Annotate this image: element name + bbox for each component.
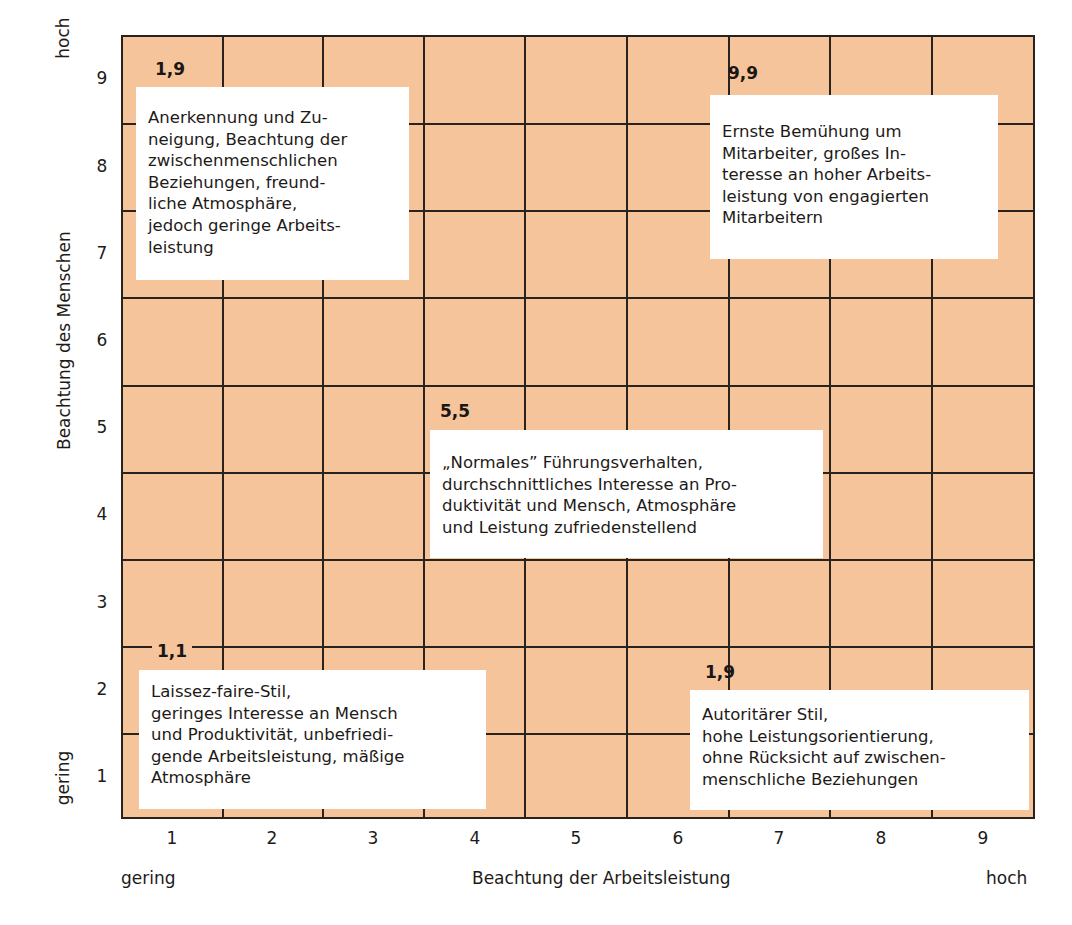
description-line: Anerkennung und Zu-	[148, 107, 409, 129]
x-tick: 4	[455, 828, 495, 848]
x-axis-low-label: gering	[121, 868, 176, 888]
y-tick: 9	[92, 68, 112, 88]
description-line: Mitarbeiter, großes In-	[722, 143, 998, 165]
description-box-country-club: Anerkennung und Zu- neigung, Beachtung d…	[136, 87, 409, 280]
description-line: leistung von engagierten	[722, 186, 998, 208]
description-line: duktivität und Mensch, Atmosphäre	[442, 495, 823, 517]
description-line: gende Arbeitsleistung, mäßige	[151, 746, 486, 768]
coordinate-label-authority: 1,9	[705, 662, 735, 682]
grid-line-vertical	[626, 37, 628, 817]
description-box-impoverished: Laissez-faire-Stil, geringes Interesse a…	[139, 670, 486, 809]
coordinate-label-9-9: 9,9	[728, 63, 758, 83]
description-line: und Leistung zufriedenstellend	[442, 517, 823, 539]
y-tick: 7	[92, 243, 112, 263]
y-axis-title: Beachtung des Menschen	[54, 240, 74, 450]
description-line: teresse an hoher Arbeits-	[722, 164, 998, 186]
description-line: Atmosphäre	[151, 767, 486, 789]
x-tick: 9	[963, 828, 1003, 848]
description-line: Laissez-faire-Stil,	[151, 681, 486, 703]
coordinate-label-1-9: 1,9	[155, 59, 185, 79]
x-axis-title: Beachtung der Arbeitsleistung	[472, 868, 731, 888]
y-tick: 8	[92, 156, 112, 176]
y-tick: 3	[92, 592, 112, 612]
y-axis-low-label: gering	[53, 743, 73, 813]
description-line: hohe Leistungsorientierung,	[702, 726, 1029, 748]
x-tick: 2	[252, 828, 292, 848]
description-line: leistung	[148, 237, 409, 259]
description-line: jedoch geringe Arbeits-	[148, 215, 409, 237]
grid-line-vertical	[524, 37, 526, 817]
managerial-grid-diagram: 9 8 7 6 5 4 3 2 1 1 2 3 4 5 6 7 8 9 hoch…	[0, 0, 1072, 925]
x-tick: 6	[658, 828, 698, 848]
description-line: durchschnittliches Interesse an Pro-	[442, 474, 823, 496]
description-line: liche Atmosphäre,	[148, 193, 409, 215]
x-tick: 5	[556, 828, 596, 848]
description-box-authority-compliance: Autoritärer Stil, hohe Leistungsorientie…	[690, 690, 1029, 810]
x-tick: 7	[759, 828, 799, 848]
coordinate-label-1-1: 1,1	[152, 641, 192, 661]
description-line: Autoritärer Stil,	[702, 704, 1029, 726]
description-line: menschliche Beziehungen	[702, 769, 1029, 791]
description-line: zwischenmenschlichen	[148, 150, 409, 172]
description-line: neigung, Beachtung der	[148, 129, 409, 151]
y-tick: 2	[92, 679, 112, 699]
description-box-team: Ernste Bemühung um Mitarbeiter, großes I…	[710, 95, 998, 259]
grid-line-horizontal	[123, 297, 1033, 299]
description-box-middle-of-the-road: „Normales” Führungsverhalten, durchschni…	[430, 430, 823, 558]
description-line: Mitarbeitern	[722, 207, 998, 229]
description-line: „Normales” Führungsverhalten,	[442, 452, 823, 474]
y-tick: 1	[92, 766, 112, 786]
y-axis-high-label: hoch	[53, 8, 73, 68]
description-line: ohne Rücksicht auf zwischen-	[702, 747, 1029, 769]
x-tick: 1	[152, 828, 192, 848]
description-line: geringes Interesse an Mensch	[151, 703, 486, 725]
y-tick: 6	[92, 330, 112, 350]
grid-line-horizontal	[123, 646, 1033, 648]
y-tick: 4	[92, 504, 112, 524]
x-axis-high-label: hoch	[986, 868, 1027, 888]
grid-line-horizontal	[123, 559, 1033, 561]
x-tick: 3	[353, 828, 393, 848]
description-line: und Produktivität, unbefriedi-	[151, 724, 486, 746]
description-line: Ernste Bemühung um	[722, 121, 998, 143]
y-tick: 5	[92, 417, 112, 437]
x-tick: 8	[861, 828, 901, 848]
coordinate-label-5-5: 5,5	[440, 401, 470, 421]
description-line: Beziehungen, freund-	[148, 172, 409, 194]
grid-line-horizontal	[123, 385, 1033, 387]
